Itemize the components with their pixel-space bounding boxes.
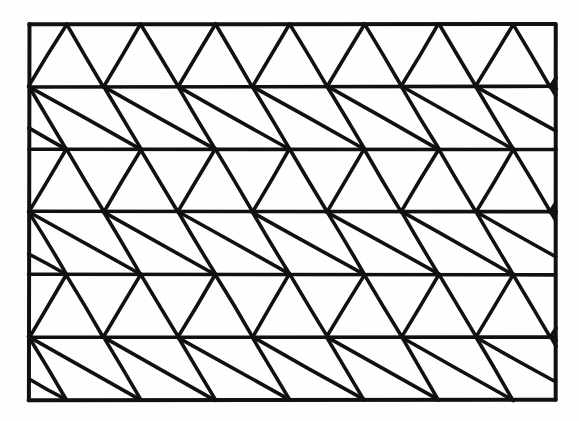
frame-left-edge: [29, 24, 30, 400]
triangular-lattice-figure: [0, 0, 579, 421]
figure-canvas: [0, 0, 579, 421]
